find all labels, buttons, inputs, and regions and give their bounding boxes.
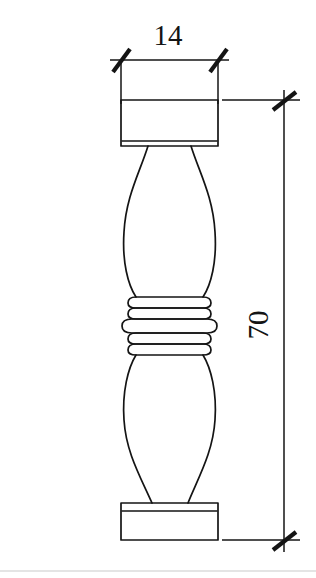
baluster-object [121,100,218,540]
collar-ring-5 [128,344,211,355]
baluster-upper-bulge-left-profile [124,146,148,297]
collar-ring-3-wide [122,319,217,333]
width-dimension-label: 14 [154,19,184,51]
baluster-upper-bulge-right-profile [191,146,215,297]
baluster-top-cap [121,100,218,146]
width-dimension-group: 14 [110,19,229,104]
baluster-collar-rings [122,297,217,355]
height-dimension-label: 70 [242,311,274,340]
baluster-lower-bulge-right-profile [188,355,215,503]
baluster-lower-bulge-left-profile [124,355,152,503]
collar-ring-4 [128,333,211,344]
height-dimension-group: 70 [222,90,300,552]
collar-ring-1 [128,297,211,308]
baluster-base [121,503,218,540]
collar-ring-2 [128,308,211,319]
technical-drawing-canvas: 14 70 [0,0,316,578]
